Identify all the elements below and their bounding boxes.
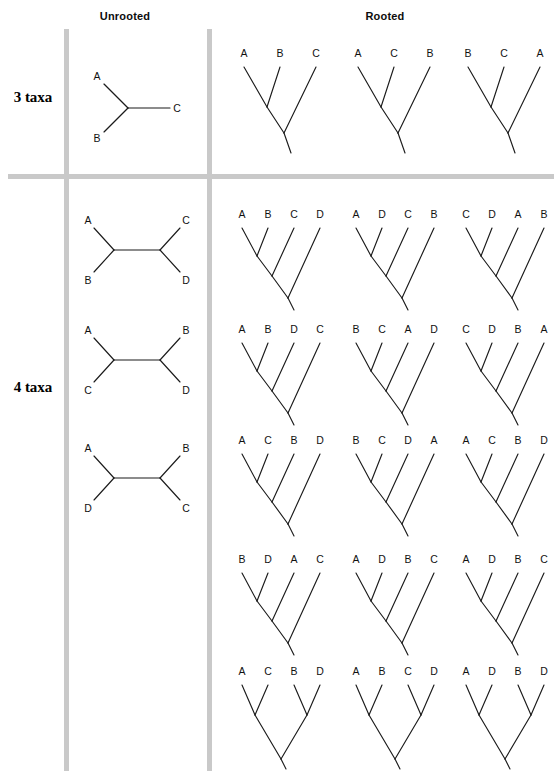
phylogenetic-tree-figure: Unrooted Rooted 3 taxa 4 taxa ABCABCDACB… (0, 0, 554, 771)
tip-label: C (500, 47, 508, 59)
tree-diagram-rooted-3-2: ACB (342, 45, 446, 157)
tip-label: A (462, 665, 469, 677)
tip-label: D (404, 434, 412, 446)
unrooted-tree: ABCD (80, 212, 180, 284)
divider-horizontal-middle (8, 174, 554, 179)
tip-label: B (378, 665, 385, 677)
tip-label: B (182, 324, 189, 336)
tip-label: B (514, 434, 521, 446)
rooted-tree: CDBA (452, 321, 554, 421)
tree-diagram-rooted-3-3: BCA (452, 45, 554, 157)
tip-label: C (462, 323, 470, 335)
tip-label: D (316, 665, 324, 677)
rooted-tree: CDAB (452, 206, 554, 306)
tip-label: A (404, 323, 411, 335)
rooted-tree: BDAC (228, 551, 332, 651)
tip-label: B (93, 132, 100, 144)
tip-label: A (84, 214, 91, 226)
tip-label: C (378, 323, 386, 335)
tip-label: D (316, 208, 324, 220)
rooted-tree: ACBD (228, 432, 332, 532)
tree-diagram-rooted-4-6: CDBA (452, 321, 554, 421)
tip-label: A (514, 208, 521, 220)
tip-label: B (404, 553, 411, 565)
tree-diagram-unrooted-4-2: ACBD (80, 322, 180, 394)
tip-label: B (238, 553, 245, 565)
rooted-tree: BCAD (342, 321, 446, 421)
tip-label: C (182, 502, 190, 514)
tip-label: B (352, 434, 359, 446)
tip-label: B (84, 274, 91, 286)
rooted-tree: ADBC (452, 551, 554, 651)
tip-label: D (378, 208, 386, 220)
tip-label: A (536, 47, 543, 59)
rooted-tree: ABDC (228, 321, 332, 421)
rooted-tree: ADBC (342, 551, 446, 651)
tip-label: A (540, 323, 547, 335)
tree-diagram-rooted-4-5: BCAD (342, 321, 446, 421)
tree-diagram-rooted-4-4: ABDC (228, 321, 332, 421)
tree-diagram-rooted-4-15: ADBD (452, 663, 554, 763)
tip-label: C (430, 553, 438, 565)
tree-diagram-rooted-3-1: ABC (228, 45, 332, 157)
tip-label: A (238, 323, 245, 335)
divider-vertical-middle (207, 29, 212, 771)
tip-label: B (264, 323, 271, 335)
tip-label: B (426, 47, 433, 59)
tip-label: B (514, 323, 521, 335)
rooted-tree: ABCD (342, 663, 446, 763)
tree-diagram-rooted-4-3: CDAB (452, 206, 554, 306)
tree-diagram-unrooted-4-3: ADBC (80, 440, 180, 512)
rooted-tree: ACBD (452, 432, 554, 532)
rooted-tree: ACBD (228, 663, 332, 763)
tip-label: A (238, 208, 245, 220)
tip-label: D (540, 434, 548, 446)
column-header-rooted: Rooted (335, 10, 435, 22)
tip-label: B (430, 208, 437, 220)
tip-label: A (352, 665, 359, 677)
tree-diagram-rooted-4-8: BCDA (342, 432, 446, 532)
tip-label: B (352, 323, 359, 335)
tip-label: C (540, 553, 548, 565)
tip-label: C (404, 665, 412, 677)
tip-label: C (312, 47, 320, 59)
tree-diagram-unrooted-4-1: ABCD (80, 212, 180, 284)
unrooted-tree: ABC (80, 66, 180, 146)
tip-label: A (93, 70, 100, 82)
tip-label: D (488, 665, 496, 677)
row-label-three-taxa: 3 taxa (4, 89, 62, 106)
tree-diagram-rooted-4-2: ADCB (342, 206, 446, 306)
tip-label: C (316, 323, 324, 335)
tip-label: D (488, 323, 496, 335)
tip-label: A (290, 553, 297, 565)
tip-label: A (354, 47, 361, 59)
tree-diagram-rooted-4-11: ADBC (342, 551, 446, 651)
tip-label: D (182, 384, 190, 396)
divider-vertical-left (64, 29, 69, 771)
tip-label: D (84, 502, 92, 514)
tip-label: B (290, 434, 297, 446)
tip-label: C (316, 553, 324, 565)
tip-label: D (430, 323, 438, 335)
rooted-tree: BCDA (342, 432, 446, 532)
tree-diagram-unrooted-3-1: ABC (80, 66, 180, 146)
rooted-tree: ABC (228, 45, 332, 157)
tip-label: C (264, 434, 272, 446)
tip-label: D (488, 553, 496, 565)
tip-label: A (352, 208, 359, 220)
tip-label: C (84, 384, 92, 396)
rooted-tree: ADBD (452, 663, 554, 763)
tip-label: A (352, 553, 359, 565)
tip-label: C (378, 434, 386, 446)
tip-label: D (264, 553, 272, 565)
tip-label: A (238, 434, 245, 446)
tip-label: A (462, 434, 469, 446)
tip-label: A (84, 442, 91, 454)
tip-label: B (514, 553, 521, 565)
tip-label: B (464, 47, 471, 59)
tip-label: C (488, 434, 496, 446)
row-label-four-taxa: 4 taxa (4, 379, 62, 396)
tip-label: C (390, 47, 398, 59)
tip-label: A (238, 665, 245, 677)
tip-label: B (182, 442, 189, 454)
